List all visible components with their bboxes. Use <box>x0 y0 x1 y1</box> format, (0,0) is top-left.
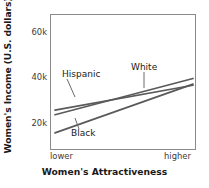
x-tick-label-lower: lower <box>50 152 73 160</box>
y-tick-label-60k: 60k <box>21 28 47 36</box>
y-tick-label-40k: 40k <box>21 73 47 81</box>
y-axis-title-text: Women's Income (U.S. dollars) <box>3 0 14 153</box>
x-axis-title: Women's Attractiveness <box>0 166 209 177</box>
x-tick-label-higher: higher <box>164 152 191 160</box>
series-label-black: Black <box>71 129 95 138</box>
leader-line-black <box>74 118 84 130</box>
chart-figure: Women's Income (U.S. dollars) 60k 40k 20… <box>0 0 209 188</box>
leader-line-white <box>141 72 149 90</box>
y-axis-tick-labels: 60k 40k 20k <box>18 0 47 150</box>
leader-line-hispanic <box>66 79 80 99</box>
y-tick-label-20k: 20k <box>21 119 47 127</box>
series-label-hispanic: Hispanic <box>62 70 100 79</box>
y-axis-title: Women's Income (U.S. dollars) <box>0 0 16 150</box>
series-label-white: White <box>131 63 157 72</box>
